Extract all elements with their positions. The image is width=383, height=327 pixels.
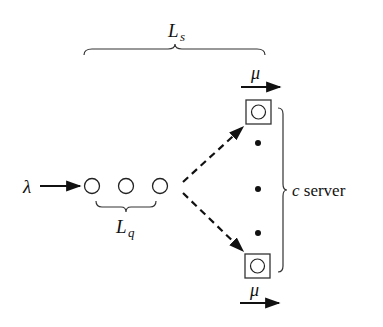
svg-text:s: s — [180, 29, 185, 44]
server-bottom — [245, 254, 270, 278]
system-length-label: L s — [167, 20, 185, 44]
ellipsis-dot-1 — [255, 140, 261, 146]
service-rate-top-label: μ — [250, 63, 260, 83]
queue-customer-3 — [153, 179, 168, 194]
svg-text:L: L — [115, 216, 127, 237]
route-arrow-top — [183, 127, 243, 182]
ellipsis-dot-3 — [255, 230, 261, 236]
svg-text:L: L — [167, 20, 179, 41]
service-rate-bottom-label: μ — [249, 280, 259, 300]
queueing-diagram: L s λ L q μ μ c server — [0, 0, 383, 327]
svg-text:q: q — [128, 225, 135, 240]
system-brace — [84, 44, 265, 55]
server-top-customer — [252, 105, 266, 119]
server-bottom-customer — [251, 259, 265, 273]
svg-text:c server: c server — [292, 181, 346, 200]
servers-count-label: c server — [292, 181, 346, 200]
server-top — [246, 100, 271, 124]
queue-customer-1 — [85, 179, 100, 194]
queue-brace — [96, 201, 156, 212]
arrival-rate-label: λ — [22, 176, 31, 197]
route-arrow-bottom — [183, 193, 243, 251]
queue-length-label: L q — [115, 216, 135, 240]
queue-customer-2 — [119, 179, 134, 194]
ellipsis-dot-2 — [255, 186, 261, 192]
servers-brace — [278, 108, 287, 272]
